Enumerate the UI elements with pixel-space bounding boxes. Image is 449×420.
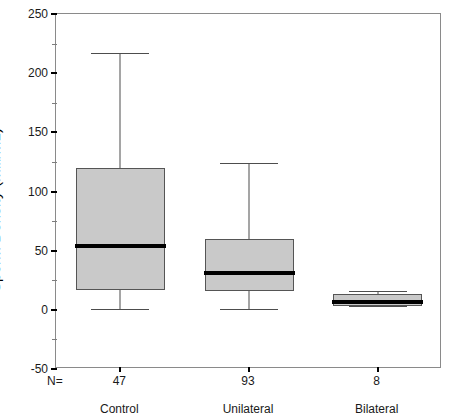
whisker-lower-cap — [91, 309, 149, 310]
y-tick-label: 150 — [28, 125, 48, 139]
y-tick-major — [51, 309, 57, 311]
category-label-control: Control — [100, 402, 139, 416]
y-tick-label: 100 — [28, 185, 48, 199]
category-label-unilateral: Unilateral — [223, 402, 274, 416]
n-count-unilateral: 93 — [241, 374, 254, 388]
whisker-lower-stem — [120, 290, 121, 309]
whisker-upper-cap — [91, 53, 149, 54]
whisker-upper-cap — [220, 163, 278, 164]
box-unilateral — [205, 14, 294, 367]
y-tick-major — [51, 72, 57, 74]
y-tick-label: 250 — [28, 7, 48, 21]
y-tick-label: 0 — [41, 303, 48, 317]
category-label-bilateral: Bilateral — [355, 402, 398, 416]
y-axis-title-text: Sperm Density (mill/mL) — [0, 128, 43, 293]
n-count-bilateral: 8 — [373, 374, 380, 388]
x-tick-bilateral — [377, 367, 379, 372]
whisker-upper-cap — [349, 291, 407, 292]
y-tick-major — [51, 368, 57, 370]
y-tick-minor — [52, 44, 57, 45]
whisker-lower-cap — [220, 309, 278, 310]
y-tick-minor — [52, 162, 57, 163]
y-tick-major — [51, 131, 57, 133]
y-tick-minor — [52, 339, 57, 340]
box-bilateral — [333, 14, 422, 367]
median-line — [75, 244, 166, 248]
whisker-upper-stem — [249, 163, 250, 239]
y-tick-minor — [52, 103, 57, 104]
median-line — [204, 271, 295, 275]
y-tick-label: 200 — [28, 66, 48, 80]
n-count-control: 47 — [113, 374, 126, 388]
iqr-box — [205, 239, 294, 291]
median-line — [332, 300, 423, 304]
y-tick-major — [51, 191, 57, 193]
x-tick-unilateral — [248, 367, 250, 372]
plot-area: 250200150100500-50 — [55, 13, 441, 368]
whisker-lower-stem — [249, 291, 250, 309]
y-tick-label: 50 — [35, 244, 48, 258]
n-prefix-label: N= — [47, 374, 63, 388]
y-tick-label: -50 — [31, 362, 48, 376]
box-control — [76, 14, 165, 367]
whisker-lower-cap — [349, 306, 407, 307]
x-tick-control — [119, 367, 121, 372]
y-tick-minor — [52, 221, 57, 222]
y-tick-major — [51, 13, 57, 15]
y-tick-major — [51, 250, 57, 252]
whisker-upper-stem — [120, 53, 121, 168]
iqr-box — [76, 168, 165, 290]
y-axis-title: Sperm Density (mill/mL) — [0, 0, 28, 420]
y-tick-minor — [52, 280, 57, 281]
box-plot-figure: Sperm Density (mill/mL) 250200150100500-… — [0, 0, 449, 420]
